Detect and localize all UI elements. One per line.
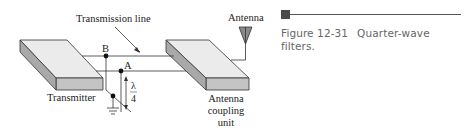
- arrowhead-icon: [134, 47, 140, 53]
- transmitter-front: [56, 78, 103, 90]
- quarter-wave-filter-diagram: Transmission line Antenna Transmitter An…: [0, 0, 464, 136]
- transmission-line-label: Transmission line: [76, 13, 151, 24]
- stub-length-numerator: λ: [131, 80, 136, 91]
- transmitter-label: Transmitter: [47, 92, 96, 103]
- coupling-unit-box: [166, 40, 249, 90]
- transmission-line-pointer: [115, 27, 140, 53]
- antenna-label: Antenna: [228, 12, 264, 23]
- coupling-unit-label-2: coupling: [208, 105, 245, 116]
- caption-rule: [281, 14, 461, 15]
- point-b-node: [104, 54, 109, 59]
- dimension-arrow-top-icon: [124, 76, 128, 81]
- coupling-unit-label-1: Antenna: [208, 93, 244, 104]
- coupling-unit-front: [206, 78, 249, 90]
- caption-marker-icon: [281, 10, 290, 19]
- point-a-node: [119, 69, 124, 74]
- antenna: [231, 27, 252, 60]
- transmitter-box: [20, 40, 103, 90]
- transmission-line: [82, 56, 186, 71]
- coupling-unit-label-3: unit: [218, 117, 234, 128]
- figure-caption: Figure 12-31Quarter-wave filters.: [281, 27, 461, 53]
- stub-length-denominator: 4: [131, 93, 136, 104]
- figure-number: Figure 12-31: [281, 27, 348, 39]
- point-b-label: B: [102, 43, 109, 54]
- point-a-label: A: [124, 60, 132, 71]
- ground-node: [111, 94, 116, 99]
- stub-diagonal: [106, 90, 131, 112]
